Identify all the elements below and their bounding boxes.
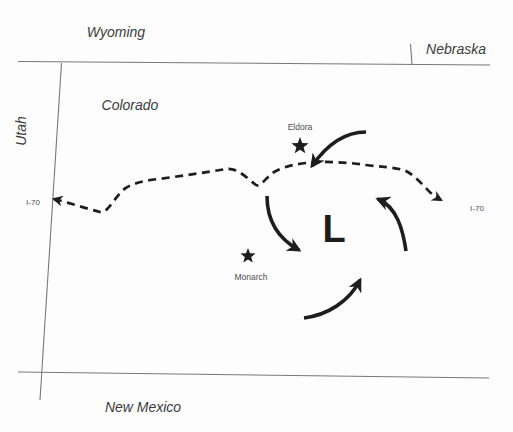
colorado-new-mexico-border-line	[18, 372, 489, 378]
eldora-marker-label: Eldora	[288, 122, 313, 132]
wyoming-label: Wyoming	[87, 24, 146, 40]
cyclonic-arrow-bottom	[304, 280, 360, 318]
monarch-star-icon	[240, 248, 255, 263]
i70-right-label: I-70	[470, 204, 484, 213]
colorado-weather-sketch-map: Wyoming Nebraska Colorado Utah New Mexic…	[0, 0, 513, 432]
colorado-label: Colorado	[102, 97, 159, 113]
eldora-star-icon	[291, 137, 308, 153]
low-pressure-symbol: L	[322, 208, 345, 250]
new-mexico-label: New Mexico	[105, 399, 181, 415]
cyclonic-arrow-top	[312, 132, 366, 166]
cyclonic-arrow-right	[378, 199, 406, 251]
nebraska-label: Nebraska	[426, 41, 486, 57]
wyoming-colorado-border-line	[18, 62, 490, 66]
utah-colorado-border-line	[40, 63, 62, 400]
i70-highway-dashed-route	[54, 162, 441, 212]
map-canvas: Wyoming Nebraska Colorado Utah New Mexic…	[0, 0, 513, 432]
cyclonic-arrow-left	[267, 196, 299, 250]
i70-left-label: I-70	[26, 198, 40, 207]
monarch-marker-label: Monarch	[234, 272, 267, 282]
wyoming-nebraska-border-tick	[411, 44, 413, 65]
utah-label: Utah	[13, 116, 29, 146]
